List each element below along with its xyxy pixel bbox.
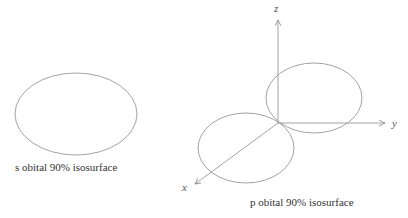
orbital-diagram-canvas (0, 0, 408, 218)
p-orbital-lobe-lower (198, 113, 294, 183)
x-axis (195, 123, 278, 184)
s-orbital-isosurface (15, 73, 137, 155)
s-orbital-caption: s obital 90% isosurface (15, 161, 117, 173)
y-axis-label: y (392, 117, 397, 129)
p-orbital-lobe-upper (266, 63, 362, 133)
x-axis-label: x (182, 181, 187, 193)
p-orbital-caption: p obital 90% isosurface (250, 196, 354, 208)
z-axis-label: z (274, 2, 278, 14)
